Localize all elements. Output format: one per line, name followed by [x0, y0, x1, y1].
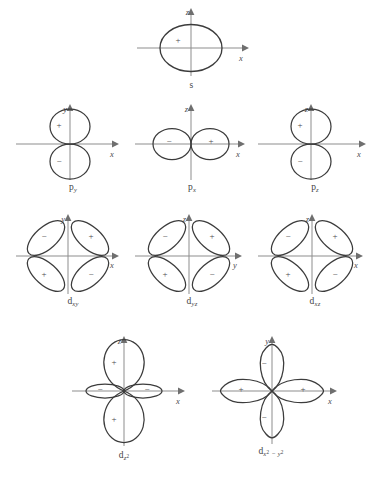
sign-top: + — [111, 357, 116, 367]
sign-upper-right: + — [88, 231, 93, 241]
orbital-py: y x + − py — [14, 100, 132, 200]
orbital-px: z x − + px — [133, 100, 251, 200]
sign-bottom: − — [56, 156, 61, 166]
orbital-dxy-svg: y x − + + − — [14, 210, 132, 298]
axis-label-horizontal: x — [327, 396, 332, 406]
sign-upper-left: − — [162, 231, 167, 241]
axes-pz: z x — [258, 104, 366, 180]
axes-dx2y2: y x — [212, 336, 337, 444]
axis-label-horizontal: x — [109, 260, 114, 270]
sign-bottom: + — [111, 414, 116, 424]
sign-right-small: − — [144, 384, 149, 394]
axes-dxy: y x — [16, 214, 119, 294]
orbital-label-dz2: dz2 — [54, 450, 194, 460]
orbital-figure: z x + s y x + − py — [0, 0, 383, 484]
sign-top: + — [56, 120, 61, 130]
sign-left: + — [238, 384, 243, 394]
orbital-dyz-svg: z y − + + − — [133, 210, 251, 298]
axis-label-horizontal: x — [109, 149, 114, 159]
axis-label-horizontal: x — [238, 53, 243, 63]
orbital-dx2y2: y x + + − − dx2 − y2 — [208, 332, 358, 467]
axes-s: z x — [137, 7, 249, 76]
axis-label-horizontal: y — [232, 260, 237, 270]
sign-bottom: − — [297, 156, 302, 166]
sign-top: + — [297, 120, 302, 130]
orbital-dx2y2-svg: y x + + − − — [208, 332, 358, 450]
orbital-dz2: z x + + − − dz2 — [62, 332, 202, 467]
axis-label-horizontal: x — [235, 149, 240, 159]
sign-lower-right: − — [332, 269, 337, 279]
orbital-dxz: z x − + + − dxz — [256, 210, 374, 314]
sign-lower-left: + — [162, 269, 167, 279]
orbital-py-svg: y x + − — [14, 100, 132, 184]
orbital-dyz: z y − + + − dyz — [133, 210, 251, 314]
sign-lower-right: − — [88, 269, 93, 279]
orbital-label-dx2y2: dx2 − y2 — [196, 446, 346, 456]
sign-left-small: − — [97, 384, 102, 394]
axes-py: y x — [16, 104, 119, 180]
orbital-pz: z x + − pz — [256, 100, 374, 200]
orbital-pz-svg: z x + − — [256, 100, 374, 184]
orbital-label-px: px — [133, 182, 251, 192]
orbital-label-pz: pz — [256, 182, 374, 192]
orbital-px-svg: z x − + — [133, 100, 251, 184]
sign-top: − — [261, 358, 266, 368]
orbital-label-dyz: dyz — [133, 296, 251, 306]
sign-right: + — [208, 136, 213, 146]
orbital-s-svg: z x + — [129, 4, 254, 82]
orbital-label-dxy: dxy — [14, 296, 132, 306]
orbital-s: z x + s — [129, 4, 254, 96]
axes-dz2: z x — [72, 336, 185, 446]
sign-lower-right: − — [209, 269, 214, 279]
axis-label-horizontal: x — [353, 260, 358, 270]
sign-upper-left: − — [285, 231, 290, 241]
axis-label-horizontal: x — [356, 149, 361, 159]
sign-bottom: − — [261, 412, 266, 422]
axis-label-vertical: z — [184, 104, 189, 114]
orbital-label-s: s — [129, 80, 254, 90]
sign-upper-left: − — [41, 231, 46, 241]
axis-label-horizontal: x — [175, 396, 180, 406]
sign-lower-left: + — [285, 269, 290, 279]
sign-right: + — [300, 384, 305, 394]
sign-center: + — [175, 35, 180, 45]
orbital-dz2-svg: z x + + − − — [62, 332, 202, 450]
sign-lower-left: + — [41, 269, 46, 279]
orbital-label-py: py — [14, 182, 132, 192]
sign-upper-right: + — [332, 231, 337, 241]
axis-label-vertical: y — [264, 336, 269, 346]
orbital-dxz-svg: z x − + + − — [256, 210, 374, 298]
sign-left: − — [166, 136, 171, 146]
sign-upper-right: + — [209, 231, 214, 241]
axis-label-vertical: z — [185, 7, 190, 17]
orbital-label-dxz: dxz — [256, 296, 374, 306]
orbital-dxy: y x − + + − dxy — [14, 210, 132, 314]
